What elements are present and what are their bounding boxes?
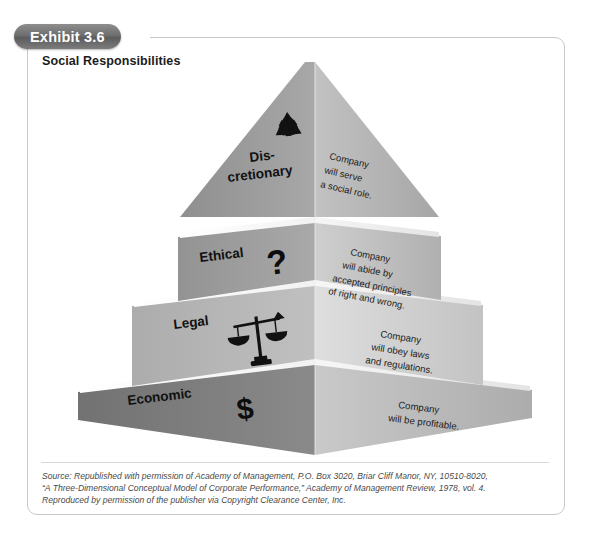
source-note: Source: Republished with permission of A… xyxy=(42,470,547,507)
exhibit-figure: Exhibit 3.6 Social Responsibilities xyxy=(0,0,591,537)
source-line-2: “A Three-Dimensional Conceptual Model of… xyxy=(42,482,547,494)
exhibit-tab-badge: Exhibit 3.6 xyxy=(14,24,121,49)
pyramid-diagram: Economic $ Company will be profitable. L… xyxy=(28,56,564,461)
tier-discretionary-right-face xyxy=(315,62,439,217)
exhibit-tab-label: Exhibit 3.6 xyxy=(30,29,105,45)
source-line-1: Source: Republished with permission of A… xyxy=(42,470,547,482)
source-line-3: Reproduced by permission of the publishe… xyxy=(42,494,547,506)
source-divider xyxy=(41,462,549,463)
pyramid-tier-discretionary: Dis- cretionary Company will serve a soc… xyxy=(180,62,439,217)
tier-discretionary-label-line-1: Dis- xyxy=(249,147,276,165)
tier-discretionary-left-face xyxy=(180,62,315,217)
question-mark-icon: ? xyxy=(264,242,289,282)
